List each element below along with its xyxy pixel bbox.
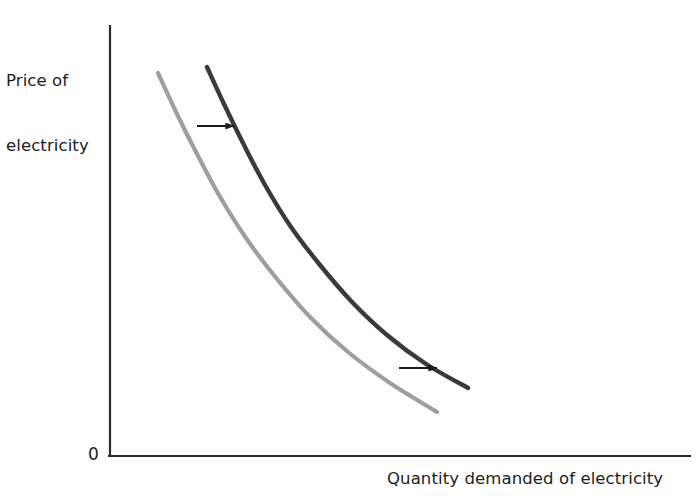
y-axis-label-line-2: electricity [6, 135, 89, 157]
x-axis-label: Quantity demanded of electricity [387, 468, 663, 490]
y-axis-label: Price of electricity [6, 26, 89, 200]
original-demand-curve [158, 73, 437, 412]
y-axis-label-line-1: Price of [6, 70, 89, 92]
demand-shift-figure: Price of electricity Quantity demanded o… [0, 0, 697, 502]
origin-label: 0 [88, 446, 99, 463]
plot-area [0, 0, 697, 502]
new-demand-curve [207, 67, 468, 388]
